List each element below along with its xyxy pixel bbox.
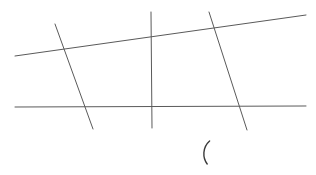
left-parenthesis-mark <box>204 141 210 164</box>
center-vertical-line <box>151 12 152 128</box>
right-slanted-line <box>209 12 247 130</box>
line-figure-svg <box>0 0 316 175</box>
left-slanted-line <box>55 24 93 129</box>
lower-horizontal-line <box>15 106 306 107</box>
figure-canvas <box>0 0 316 175</box>
